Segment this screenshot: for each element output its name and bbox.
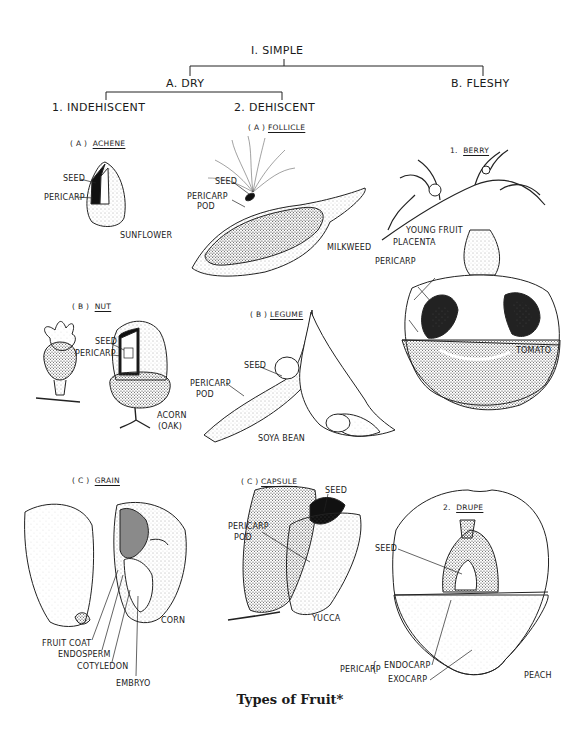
grain-label-endosperm: ENDOSPERM xyxy=(58,651,111,659)
follicle-drawing xyxy=(192,136,365,276)
grain-label-fruit-coat: FRUIT COAT xyxy=(42,640,91,648)
berry-label-placenta: PLACENTA xyxy=(393,239,436,247)
grain-label-cotyledon: COTYLEDON xyxy=(77,663,128,671)
section-title-achene: ( A ) ACHENE xyxy=(70,140,125,148)
legume-label-pod: POD xyxy=(196,391,214,399)
section-title-capsule: ( C ) CAPSULE xyxy=(241,478,297,486)
grain-example: CORN xyxy=(161,617,185,625)
figure-caption: Types of Fruit* xyxy=(0,692,580,707)
tree-node-dry: A. DRY xyxy=(166,78,204,89)
nut-label-pericarp: PERICARP xyxy=(75,350,116,358)
capsule-label-pod: POD xyxy=(234,534,252,542)
achene-example: SUNFLOWER xyxy=(120,232,172,240)
drupe-label-exocarp: EXOCARP xyxy=(388,676,427,684)
section-title-berry: 1. BERRY xyxy=(450,147,489,155)
legume-label-pericarp: PERICARP xyxy=(190,380,231,388)
capsule-label-seed: SEED xyxy=(325,487,347,495)
berry-label-young-fruit: YOUNG FRUIT xyxy=(406,227,463,235)
legume-drawing xyxy=(204,310,395,442)
follicle-example: MILKWEED xyxy=(327,244,371,252)
tree-node-indehiscent: 1. INDEHISCENT xyxy=(52,102,145,113)
section-title-drupe: 2. DRUPE xyxy=(443,504,483,512)
tree-root-simple: I. SIMPLE xyxy=(251,45,303,56)
berry-example: TOMATO xyxy=(516,347,551,355)
section-title-grain: ( C ) GRAIN xyxy=(72,477,120,485)
nut-example: ACORN xyxy=(157,412,187,420)
legume-label-seed: SEED xyxy=(244,362,266,370)
section-title-legume: ( B ) LEGUME xyxy=(250,311,303,319)
tree-node-dehiscent: 2. DEHISCENT xyxy=(234,102,315,113)
drupe-drawing xyxy=(393,490,549,680)
drupe-brace: { xyxy=(370,660,379,674)
nut-example-oak: (OAK) xyxy=(158,423,182,431)
follicle-label-pod: POD xyxy=(197,203,215,211)
capsule-drawing xyxy=(228,486,361,620)
tree-node-fleshy: B. FLESHY xyxy=(451,78,510,89)
drupe-label-seed: SEED xyxy=(375,545,397,553)
achene-label-pericarp: PERICARP xyxy=(44,194,85,202)
capsule-example: YUCCA xyxy=(312,615,340,623)
section-title-follicle: ( A ) FOLLICLE xyxy=(248,124,305,132)
classification-tree-lines xyxy=(106,59,483,100)
drupe-example: PEACH xyxy=(524,672,552,680)
berry-drawing xyxy=(382,150,560,410)
nut-label-seed: SEED xyxy=(95,338,117,346)
legume-example: SOYA BEAN xyxy=(258,435,305,443)
section-title-nut: ( B ) NUT xyxy=(72,303,111,311)
grain-label-embryo: EMBRYO xyxy=(116,680,150,688)
achene-label-seed: SEED xyxy=(63,175,85,183)
follicle-label-pericarp: PERICARP xyxy=(187,193,228,201)
capsule-label-pericarp: PERICARP xyxy=(228,523,269,531)
follicle-label-seed: SEED xyxy=(215,178,237,186)
berry-label-pericarp: PERICARP xyxy=(375,258,416,266)
drupe-label-endocarp: ENDOCARP xyxy=(384,662,431,670)
